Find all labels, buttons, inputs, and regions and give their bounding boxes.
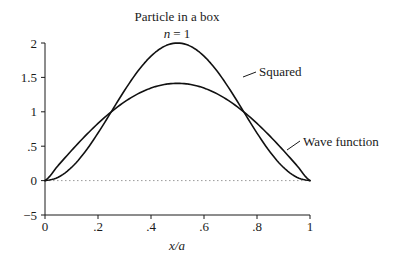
wave-function-label: Wave function (303, 134, 379, 149)
x-tick-label: .4 (146, 219, 156, 234)
x-tick-label: 0 (42, 219, 49, 234)
chart-title-group: Particle in a box n= 1 (135, 9, 220, 41)
annotation-layer: Squared Wave function (243, 64, 379, 150)
squared-label: Squared (259, 64, 302, 79)
x-tick-label: 1 (307, 219, 314, 234)
y-tick-label: −5 (23, 208, 37, 223)
y-tick-label: 1 (31, 104, 38, 119)
y-tick-label: 1.5 (21, 70, 37, 85)
y-tick-label: 2 (31, 36, 38, 51)
chart-canvas: Particle in a box n= 1 −50.511.520.2.4.6… (0, 0, 406, 262)
x-axis-label: x/a (168, 238, 185, 253)
wave-function-curve (45, 83, 310, 180)
chart-subtitle: n= 1 (164, 26, 191, 41)
wave-function-leader-line (287, 141, 300, 150)
squared-leader-line (243, 72, 256, 77)
subtitle-variable: n (164, 26, 171, 41)
x-tick-label: .8 (252, 219, 262, 234)
y-tick-label: 0 (31, 173, 38, 188)
x-tick-label: .6 (199, 219, 209, 234)
y-tick-label: .5 (27, 139, 37, 154)
subtitle-value: = 1 (173, 26, 190, 41)
x-tick-label: .2 (93, 219, 103, 234)
chart-title: Particle in a box (135, 9, 220, 24)
